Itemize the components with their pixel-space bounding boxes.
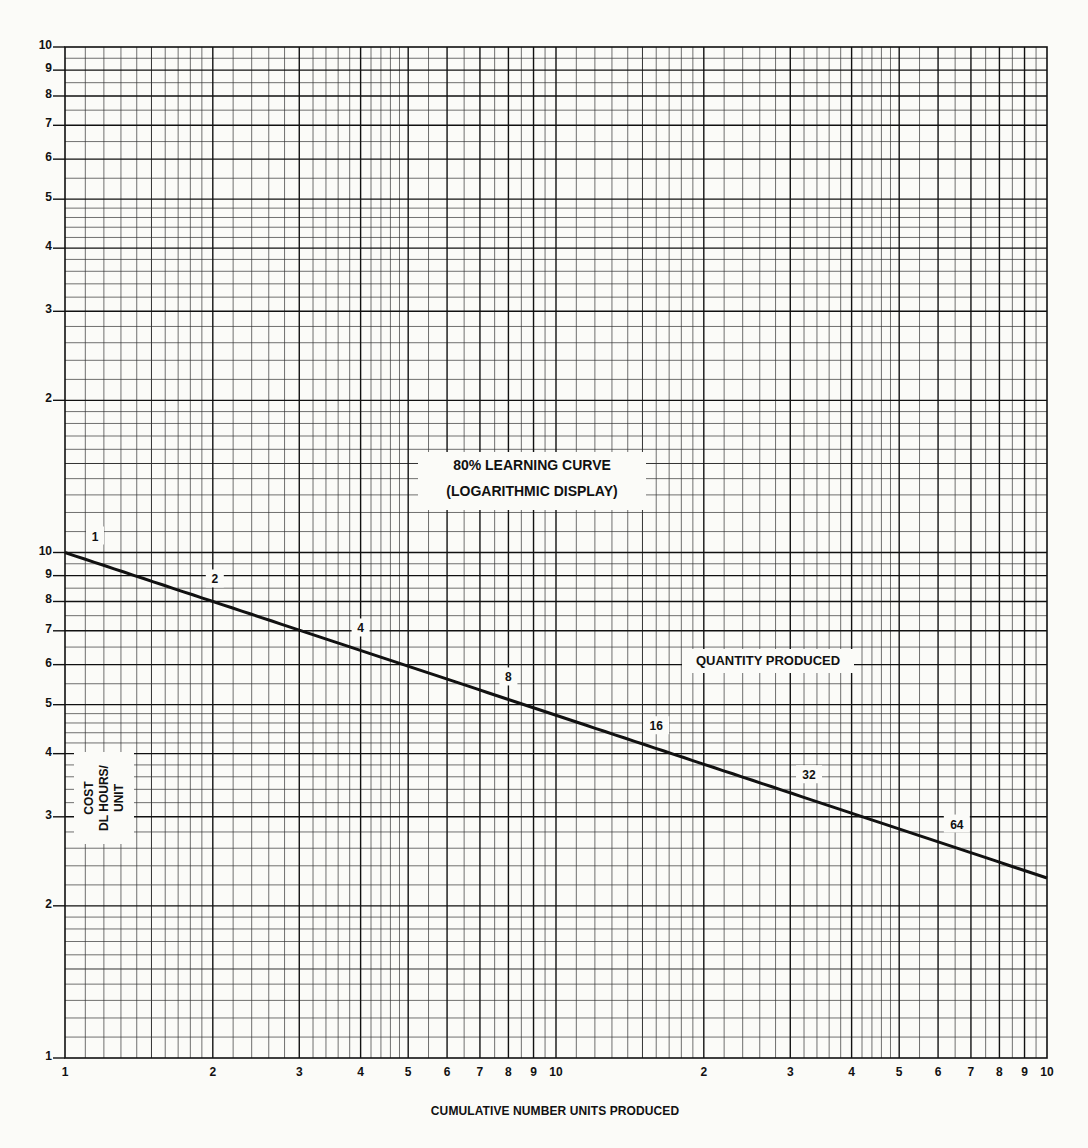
chart-subtitle: (LOGARITHMIC DISPLAY): [418, 478, 646, 504]
svg-text:1: 1: [92, 530, 99, 544]
svg-text:64: 64: [950, 818, 964, 832]
svg-text:8: 8: [505, 670, 512, 684]
x-tick-label: 7: [968, 1065, 975, 1079]
svg-text:2: 2: [211, 572, 218, 586]
y-tick-label: 5: [45, 190, 52, 204]
y-tick-label: 2: [45, 897, 52, 911]
x-axis-ticks: 123456789102345678910: [62, 1065, 1054, 1079]
x-tick-label: 5: [405, 1065, 412, 1079]
y-tick-label: 6: [45, 656, 52, 670]
y-tick-label: 3: [45, 808, 52, 822]
y-axis-ticks: 123456789102345678910: [39, 38, 65, 1063]
x-axis-label: CUMULATIVE NUMBER UNITS PRODUCED: [0, 1104, 1088, 1118]
y-axis-label-box: COST DL HOURS/ UNIT: [74, 752, 134, 844]
x-tick-label: 10: [549, 1065, 563, 1079]
x-tick-label: 9: [530, 1065, 537, 1079]
svg-text:16: 16: [650, 719, 664, 733]
x-tick-label: 9: [1021, 1065, 1028, 1079]
y-tick-label: 6: [45, 150, 52, 164]
svg-text:32: 32: [802, 768, 816, 782]
x-tick-label: 3: [296, 1065, 303, 1079]
y-axis-label: COST DL HOURS/ UNIT: [82, 765, 127, 831]
x-tick-label: 2: [700, 1065, 707, 1079]
y-tick-label: 4: [45, 239, 52, 253]
quantity-produced-annotation: QUANTITY PRODUCED: [682, 649, 854, 673]
x-tick-label: 6: [935, 1065, 942, 1079]
y-tick-label: 8: [45, 87, 52, 101]
y-tick-label: 5: [45, 696, 52, 710]
y-axis-label-line2: DL HOURS/: [97, 765, 112, 831]
x-tick-label: 1: [62, 1065, 69, 1079]
grid-major-lines: [65, 47, 1047, 1058]
x-tick-label: 2: [209, 1065, 216, 1079]
annotation-text: QUANTITY PRODUCED: [696, 653, 840, 668]
x-tick-label: 5: [896, 1065, 903, 1079]
y-axis-label-line3: UNIT: [112, 765, 127, 831]
point-label: 1: [86, 527, 104, 545]
y-tick-label: 10: [39, 38, 53, 52]
point-label: 16: [643, 716, 669, 734]
y-tick-label: 1: [45, 1049, 52, 1063]
point-labels: 1248163264: [86, 527, 970, 833]
x-tick-label: 4: [848, 1065, 855, 1079]
y-tick-label: 9: [45, 567, 52, 581]
x-tick-label: 7: [477, 1065, 484, 1079]
point-label: 32: [796, 765, 822, 783]
point-label: 64: [944, 815, 970, 833]
y-tick-label: 10: [39, 544, 53, 558]
point-label: 4: [352, 618, 370, 636]
x-tick-label: 8: [996, 1065, 1003, 1079]
x-tick-label: 3: [787, 1065, 794, 1079]
y-tick-label: 7: [45, 622, 52, 636]
y-tick-label: 7: [45, 116, 52, 130]
y-tick-label: 9: [45, 61, 52, 75]
point-label: 2: [206, 569, 224, 587]
x-tick-label: 10: [1040, 1065, 1054, 1079]
x-tick-label: 8: [505, 1065, 512, 1079]
learning-curve-chart: 123456789102345678910 123456789102345678…: [0, 0, 1088, 1148]
chart-title-box: 80% LEARNING CURVE (LOGARITHMIC DISPLAY): [418, 452, 646, 510]
y-axis-label-line1: COST: [82, 765, 97, 831]
x-tick-label: 6: [444, 1065, 451, 1079]
svg-text:4: 4: [357, 621, 364, 635]
y-tick-label: 3: [45, 302, 52, 316]
chart-title: 80% LEARNING CURVE: [418, 452, 646, 478]
y-tick-label: 4: [45, 745, 52, 759]
y-tick-label: 2: [45, 391, 52, 405]
point-label: 8: [499, 667, 517, 685]
x-tick-label: 4: [357, 1065, 364, 1079]
y-tick-label: 8: [45, 592, 52, 606]
